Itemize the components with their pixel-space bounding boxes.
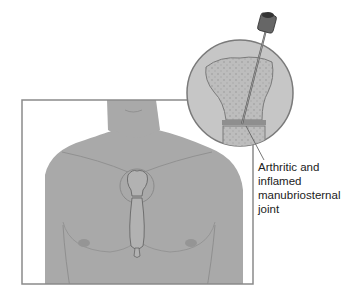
annotation-line-4: joint (258, 202, 354, 216)
annotation-line-3: manubriosternal (258, 188, 354, 202)
magnified-joint-inset (187, 40, 293, 156)
annotation-label: Arthritic and inflamed manubriosternal j… (258, 160, 354, 216)
annotation-line-2: inflamed (258, 174, 354, 188)
annotation-line-1: Arthritic and (258, 160, 354, 174)
illustration: Arthritic and inflamed manubriosternal j… (0, 0, 354, 299)
